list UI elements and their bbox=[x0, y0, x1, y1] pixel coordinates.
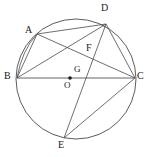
point-label-f: F bbox=[86, 43, 92, 53]
geometry-canvas bbox=[0, 0, 151, 157]
center-label-o: O bbox=[64, 81, 71, 90]
point-label-e: E bbox=[58, 140, 64, 150]
point-label-b: B bbox=[4, 71, 11, 81]
chord-a-c bbox=[37, 34, 135, 78]
point-label-c: C bbox=[137, 71, 144, 81]
chord-a-d bbox=[37, 24, 106, 34]
point-label-d: D bbox=[101, 3, 108, 13]
chord-a-b bbox=[17, 34, 37, 78]
geometry-figure: A B C D E F G O bbox=[0, 0, 151, 157]
point-label-g: G bbox=[74, 65, 81, 74]
point-label-a: A bbox=[25, 25, 32, 35]
chord-d-c bbox=[106, 24, 135, 78]
